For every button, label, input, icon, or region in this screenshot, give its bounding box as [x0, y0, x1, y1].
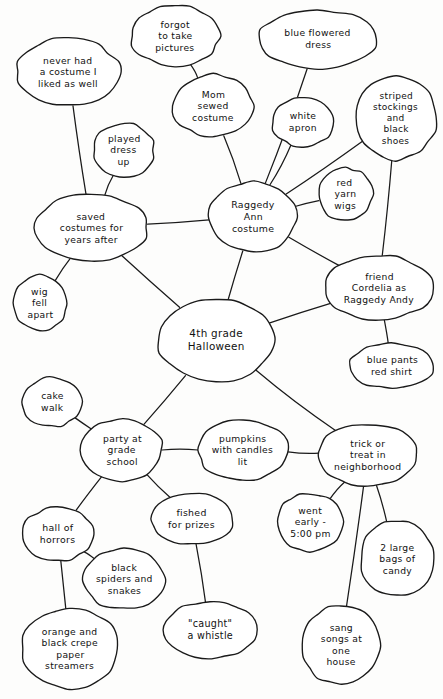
node-white_apron[interactable]: whiteapron [272, 98, 333, 148]
edge-trick_or_treat-to-went_early [330, 482, 344, 499]
node-trick_or_treat[interactable]: trick ortreat inneighborhood [318, 425, 416, 486]
bubble-label-two_bags_candy: 2 largebags ofcandy [379, 541, 415, 575]
node-fished_prizes[interactable]: fishedfor prizes [151, 493, 233, 544]
node-sang_songs[interactable]: sangsongs atonehouse [302, 606, 380, 684]
edge-friend_cordelia-to-blue_pants [384, 320, 388, 344]
node-played_dress_up[interactable]: playeddressup [94, 123, 154, 177]
edge-pumpkins-to-trick_or_treat [288, 452, 319, 454]
node-layer: never hada costume Iliked as wellforgott… [13, 5, 437, 689]
node-wig_fell_apart[interactable]: wigfellapart [13, 274, 67, 331]
bubble-label-blue_pants: blue pantsred shirt [367, 354, 418, 377]
node-forgot_pictures[interactable]: forgotto takepictures [131, 5, 221, 66]
bubble-label-hall_of_horrors: hall ofhorrors [40, 522, 76, 545]
mindmap-svg: never hada costume Iliked as wellforgott… [0, 0, 443, 699]
node-blue_dress[interactable]: blue flowereddress [259, 10, 377, 69]
node-pumpkins[interactable]: pumpkinswith candleslit [198, 420, 289, 480]
edge-hall_of_horrors-to-crepe_streamers [61, 561, 66, 609]
edge-halloween-to-party_school [144, 376, 185, 424]
node-two_bags_candy[interactable]: 2 largebags ofcandy [361, 521, 434, 595]
node-never_had[interactable]: never hada costume Iliked as well [17, 38, 121, 105]
edge-never_had-to-saved_costumes [73, 106, 86, 195]
edge-party_school-to-fished_prizes [147, 474, 171, 497]
edge-fished_prizes-to-caught_whistle [196, 544, 205, 602]
edge-party_school-to-pumpkins [162, 449, 198, 450]
edge-cake_walk-to-party_school [75, 418, 92, 430]
edge-saved_costumes-to-raggedy_ann [148, 220, 210, 224]
edge-hall_of_horrors-to-black_spiders [85, 552, 95, 559]
edge-saved_costumes-to-wig_fell_apart [55, 259, 70, 281]
node-crepe_streamers[interactable]: orange andblack crepepaperstreamers [22, 608, 117, 689]
node-striped_stockings[interactable]: stripedstockingsandblackshoes [356, 76, 437, 162]
node-party_school[interactable]: party atgradeschool [80, 419, 162, 482]
node-saved_costumes[interactable]: savedcostumes foryears after [34, 194, 147, 261]
edge-striped_stockings-to-friend_cordelia [382, 159, 392, 256]
node-cake_walk[interactable]: cakewalk [22, 377, 83, 427]
node-went_early[interactable]: wentearly -5:00 pm [278, 494, 344, 553]
edge-mom_sewed-to-raggedy_ann [224, 136, 241, 183]
node-mom_sewed[interactable]: Momsewedcostume [172, 73, 254, 137]
edge-saved_costumes-to-halloween [122, 256, 180, 308]
node-blue_pants[interactable]: blue pantsred shirt [349, 343, 433, 389]
bubble-label-never_had: never hada costume Iliked as well [38, 54, 98, 88]
edge-played_dress_up-to-saved_costumes [105, 175, 114, 196]
bubble-label-caught_whistle: "caught"a whistle [188, 618, 234, 641]
node-raggedy_ann[interactable]: RaggedyAnncostume [208, 181, 297, 252]
edge-red_yarn_wigs-to-raggedy_ann [295, 201, 319, 207]
edge-halloween-to-trick_or_treat [256, 370, 336, 431]
mindmap-canvas: never hada costume Iliked as wellforgott… [0, 0, 443, 699]
node-caught_whistle[interactable]: "caught"a whistle [163, 602, 257, 659]
bubble-label-forgot_pictures: forgotto takepictures [155, 18, 194, 52]
bubble-label-white_apron: whiteapron [289, 110, 317, 133]
edge-raggedy_ann-to-halloween [228, 251, 242, 299]
node-black_spiders[interactable]: blackspiders andsnakes [82, 548, 165, 608]
node-friend_cordelia[interactable]: friendCordelia asRaggedy Andy [326, 255, 434, 320]
node-hall_of_horrors[interactable]: hall ofhorrors [23, 507, 94, 561]
bubble-label-halloween: 4th gradeHalloween [188, 327, 245, 352]
edge-trick_or_treat-to-two_bags_candy [377, 486, 388, 524]
edge-party_school-to-hall_of_horrors [76, 477, 102, 511]
node-halloween[interactable]: 4th gradeHalloween [158, 299, 275, 381]
edge-friend_cordelia-to-halloween [269, 303, 332, 323]
edge-trick_or_treat-to-sang_songs [346, 486, 363, 607]
edge-forgot_pictures-to-mom_sewed [190, 64, 197, 77]
node-red_yarn_wigs[interactable]: redyarnwigs [319, 167, 374, 220]
edge-raggedy_ann-to-friend_cordelia [289, 237, 340, 266]
bubble-label-cake_walk: cakewalk [41, 390, 64, 413]
